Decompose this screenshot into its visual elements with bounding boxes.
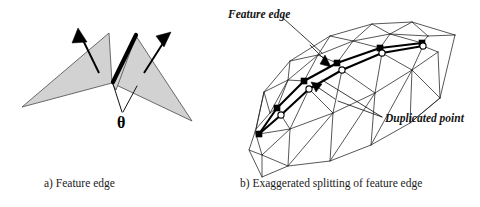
ridge-node-filled: [301, 78, 307, 84]
duplicated-node-open: [339, 67, 345, 73]
ridge-node-filled: [334, 60, 340, 66]
label-feature-edge: Feature edge: [227, 8, 290, 21]
mesh-left-cell: [256, 92, 270, 129]
ridge-node-filled: [256, 131, 262, 137]
label-duplicated-point: Duplicated point: [384, 112, 465, 125]
duplicated-node-open: [420, 43, 426, 49]
panel-b-diagram: Feature edge Duplicated point b) Exagger…: [0, 0, 480, 207]
caption-panel-b: b) Exaggerated splitting of feature edge: [240, 177, 422, 190]
feature-edge-leader: [283, 18, 322, 53]
figure-root: θ a) Feature edge: [0, 0, 480, 207]
ridge-node-filled: [274, 105, 280, 111]
mesh-struts-top-band: [264, 22, 428, 92]
mesh-lower-boundary: [255, 98, 440, 166]
duplicated-node-open: [306, 86, 312, 92]
duplicated-node-open: [278, 112, 284, 118]
duplicated-node-open: [379, 50, 385, 56]
